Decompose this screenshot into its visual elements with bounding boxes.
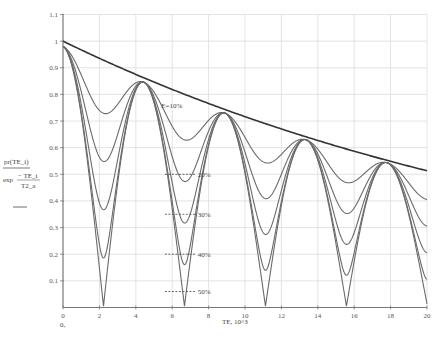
x-tick-label: 16 [351, 312, 359, 320]
x-origin-label: 0, [60, 321, 66, 329]
y-label-denominator-denominator: T2_a [21, 182, 36, 190]
y-tick-label: 0.9 [49, 64, 58, 72]
curve-label: 20% [198, 171, 211, 179]
annotations: E=10%20%30%40%50% [161, 102, 210, 296]
y-label-denominator-numerator: − TE_i [18, 172, 38, 180]
x-tick-label: 6 [170, 312, 174, 320]
x-tick-label: 0 [61, 312, 65, 320]
chart: 024681012141618200.10.20.30.40.50.60.70.… [0, 0, 442, 340]
y-axis-label: pr(TE_i) exp − TE_i T2_a [3, 158, 40, 207]
y-tick-label: 1.1 [49, 11, 58, 19]
x-tick-label: 12 [278, 312, 286, 320]
y-tick-label: 0.7 [49, 118, 58, 126]
y-label-numerator: pr(TE_i) [4, 158, 29, 166]
x-tick-label: 14 [314, 312, 322, 320]
x-tick-label: 2 [98, 312, 102, 320]
curve-label: 30% [198, 211, 211, 219]
y-tick-label: 0.5 [49, 171, 58, 179]
x-tick-label: 4 [134, 312, 138, 320]
x-tick-label: 8 [207, 312, 211, 320]
curve-label: E=10% [161, 102, 182, 110]
y-tick-label: 0.8 [49, 91, 58, 99]
x-tick-label: 20 [424, 312, 432, 320]
y-label-exp: exp [3, 176, 14, 184]
curve-label: 50% [198, 288, 211, 296]
y-tick-label: 0.1 [49, 277, 58, 285]
y-tick-label: 0.4 [49, 197, 58, 205]
y-tick-label: 0.3 [49, 224, 58, 232]
y-tick-label: 1 [55, 38, 59, 46]
x-axis-label: TE, 10^3 [222, 318, 248, 326]
x-tick-label: 18 [387, 312, 395, 320]
curve-label: 40% [198, 251, 211, 259]
y-tick-label: 0.2 [49, 251, 58, 259]
y-tick-label: 0.6 [49, 144, 58, 152]
